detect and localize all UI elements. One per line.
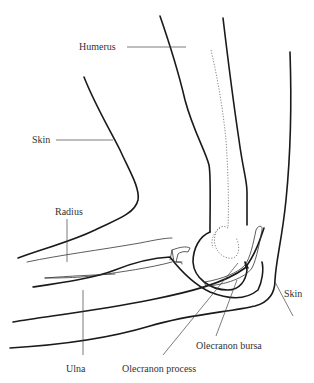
label-radius: Radius	[55, 206, 83, 217]
elbow-anatomy-diagram: Humerus Skin Radius Ulna Olecranon proce…	[0, 0, 314, 383]
humerus-dotted-arc	[212, 228, 220, 248]
upper-arm-skin-front	[18, 77, 138, 258]
forearm-skin-lower	[10, 52, 291, 348]
humerus-medullary-line	[211, 50, 239, 258]
humerus-back-edge	[223, 18, 247, 225]
radius-upper-line	[27, 238, 172, 262]
label-ulna: Ulna	[66, 363, 86, 374]
label-skin-right: Skin	[284, 288, 302, 299]
olecranon-bursa-shape	[205, 226, 262, 286]
label-humerus: Humerus	[79, 41, 116, 52]
humerus-front-edge	[160, 16, 210, 232]
label-skin-left: Skin	[32, 134, 50, 145]
label-olecranon-process: Olecranon process	[122, 363, 196, 374]
radius-shaft	[45, 262, 172, 278]
label-olecranon-bursa: Olecranon bursa	[196, 340, 262, 351]
